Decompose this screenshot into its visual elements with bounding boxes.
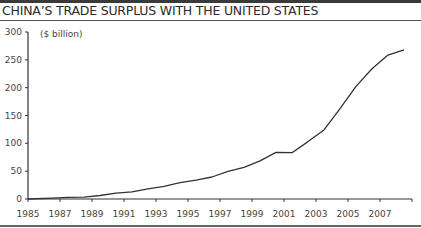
x-tick-label: 1985 <box>17 209 40 219</box>
x-tick-label: 2005 <box>337 209 360 219</box>
y-tick-label: 50 <box>11 166 23 176</box>
unit-label: ($ billion) <box>40 29 83 39</box>
y-axis: 050100150200250300 <box>5 27 28 204</box>
x-tick-label: 2007 <box>369 209 392 219</box>
y-tick-label: 0 <box>16 194 22 204</box>
series-line <box>28 50 404 199</box>
x-tick-label: 1999 <box>241 209 264 219</box>
bottom-rule <box>0 225 421 227</box>
x-tick-label: 1989 <box>81 209 104 219</box>
y-tick-label: 250 <box>5 55 22 65</box>
x-tick-label: 2001 <box>273 209 296 219</box>
y-tick-label: 300 <box>5 27 22 37</box>
y-tick-label: 200 <box>5 83 22 93</box>
x-axis: 1985198719891991199319951997199920012003… <box>17 199 412 219</box>
x-tick-label: 1987 <box>49 209 72 219</box>
x-tick-label: 1995 <box>177 209 200 219</box>
x-tick-label: 1997 <box>209 209 232 219</box>
y-tick-label: 150 <box>5 111 22 121</box>
x-tick-label: 1993 <box>145 209 168 219</box>
x-tick-label: 2003 <box>305 209 328 219</box>
y-tick-label: 100 <box>5 138 22 148</box>
x-tick-label: 1991 <box>113 209 136 219</box>
line-chart: 050100150200250300 198519871989199119931… <box>0 0 421 228</box>
